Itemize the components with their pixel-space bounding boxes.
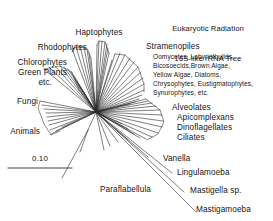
stramenopiles-member-line-5: Synurophytes, etc. bbox=[153, 89, 209, 97]
label-fungi: Fungi bbox=[0, 97, 38, 106]
label-chlorophytes: Chlorophytes bbox=[2, 58, 67, 67]
label-animals: Animals bbox=[0, 127, 40, 136]
label-dinoflagellates: Dinoflagellates bbox=[177, 123, 232, 132]
stramenopiles-member-line-2: Bicosoecids,Brown Algae, bbox=[153, 62, 230, 70]
label-etc: etc. bbox=[2, 78, 52, 87]
clade-fungi-animals-branches bbox=[38, 101, 96, 135]
label-green-plants: Green Plants bbox=[2, 68, 67, 77]
stramenopiles-member-line-1: Oomycetes, Labyrinthulids, bbox=[153, 53, 234, 61]
scale-bar-label: 0.10 bbox=[20, 155, 60, 164]
stramenopiles-member-line-3: Yellow Algae, Diatoms, bbox=[153, 71, 221, 79]
label-ciliates: Ciliates bbox=[177, 133, 205, 142]
label-rhodophytes: Rhodophytes bbox=[20, 43, 87, 52]
label-vanella: Vanella bbox=[163, 154, 190, 163]
branch-mastigella bbox=[96, 112, 184, 192]
phylogenetic-tree-figure: Eukaryotic Radiation 16S-like rRNA Tree … bbox=[0, 0, 273, 221]
label-lingulamoeba: Lingulamoeba bbox=[177, 168, 230, 177]
label-apicomplexans: Apicomplexans bbox=[177, 113, 234, 122]
label-stramenopiles: Stramenopiles bbox=[146, 42, 200, 51]
clade-alveolates-branches bbox=[96, 99, 164, 140]
label-haptophytes: Haptophytes bbox=[60, 28, 138, 37]
label-mastigamoeba: Mastigamoeba bbox=[196, 205, 251, 214]
figure-title-line1: Eukaryotic Radiation bbox=[147, 24, 269, 34]
stramenopiles-member-line-4: Chrysophytes, Eustigmatophytes, bbox=[153, 80, 253, 88]
label-paraflabellula: Paraflabellula bbox=[100, 185, 151, 194]
label-alveolates: Alveolates bbox=[172, 103, 211, 112]
branch-lingulamoeba bbox=[96, 112, 172, 173]
label-mastigella: Mastigella sp. bbox=[190, 186, 241, 195]
